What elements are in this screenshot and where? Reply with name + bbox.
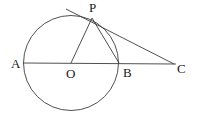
tangent-line-PC <box>66 9 174 64</box>
segment-OP <box>71 18 92 63</box>
point-label-A: A <box>11 57 20 70</box>
geometry-canvas <box>0 0 199 116</box>
geometry-figure: A O B C P <box>0 0 199 116</box>
point-label-P: P <box>89 1 96 14</box>
point-label-C: C <box>177 62 186 75</box>
point-label-O: O <box>66 67 75 80</box>
line-AC <box>23 63 176 64</box>
point-label-B: B <box>123 66 132 79</box>
